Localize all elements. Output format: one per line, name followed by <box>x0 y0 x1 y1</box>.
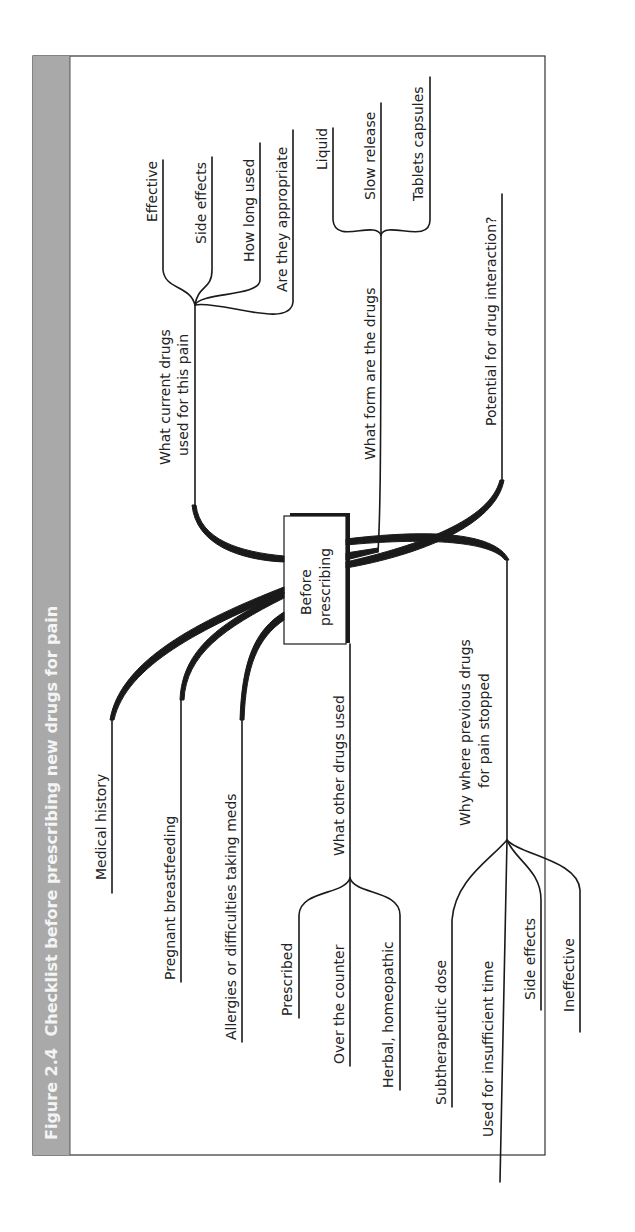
branch-medical-history-label: Medical history <box>93 774 109 880</box>
branch-current-drugs-label-2: used for this pain <box>175 334 191 456</box>
leaf-used-for-insufficient-time: Used for insufficient time <box>480 961 496 1137</box>
leaf-side-effects-2: Side effects <box>522 918 538 1000</box>
leaf-effective: Effective <box>144 161 160 222</box>
leaf-herbal-homeopathic: Herbal, homeopathic <box>380 941 396 1088</box>
leaf-slow-release: Slow release <box>362 112 378 200</box>
mind-map-figure: Figure 2.4 Checklist before prescribing … <box>0 0 635 1232</box>
figure-title-text: Checklist before prescribing new drugs f… <box>42 606 61 1037</box>
figure-number: Figure 2.4 <box>42 1048 61 1140</box>
leaf-prescribed: Prescribed <box>279 943 295 1016</box>
branch-previous-drugs-label-1: Why where previous drugs <box>457 639 473 826</box>
center-box <box>284 516 346 644</box>
center-label-line1: Before <box>298 569 314 615</box>
leaf-how-long-used: How long used <box>241 159 257 262</box>
figure-title: Figure 2.4 Checklist before prescribing … <box>42 606 61 1140</box>
center-label-line2: prescribing <box>317 548 333 626</box>
leaf-over-the-counter: Over the counter <box>331 944 347 1064</box>
leaf-tablets-capsules: Tablets capsules <box>410 86 426 202</box>
branch-current-drugs-label-1: What current drugs <box>157 329 173 465</box>
branch-drug-form-label: What form are the drugs <box>362 287 378 460</box>
leaf-liquid: Liquid <box>314 128 330 170</box>
leaf-subtherapeutic-dose: Subtherapeutic dose <box>433 960 449 1105</box>
branch-previous-drugs-label-2: for pain stopped <box>476 673 492 788</box>
branch-other-drugs-label: What other drugs used <box>331 695 347 856</box>
leaf-ineffective: Ineffective <box>561 938 577 1012</box>
branch-interaction-label: Potential for drug interaction? <box>483 217 499 426</box>
branch-allergies-label: Allergies or difficulties taking meds <box>223 793 239 1040</box>
branch-pregnant-label: Pregnant breastfeeding <box>162 816 178 980</box>
leaf-side-effects: Side effects <box>193 162 209 244</box>
leaf-are-they-appropriate: Are they appropriate <box>274 147 290 292</box>
